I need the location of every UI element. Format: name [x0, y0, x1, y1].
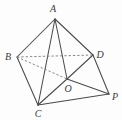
vertex-label-c: C	[35, 109, 42, 119]
edge-O-P	[67, 79, 109, 94]
edge-A-B	[17, 19, 55, 57]
edges-layer	[17, 19, 109, 105]
geometry-canvas	[0, 0, 122, 120]
edge-B-C	[17, 57, 38, 105]
vertex-label-p: P	[112, 92, 118, 102]
vertex-label-b: B	[5, 52, 11, 62]
edge-B-D-hidden	[17, 55, 93, 57]
edge-O-D	[67, 55, 93, 79]
geometry-figure: ABDCPO	[0, 0, 122, 120]
vertex-label-a: A	[50, 4, 56, 14]
edge-B-O-hidden	[17, 57, 67, 79]
vertex-label-d: D	[96, 50, 103, 60]
vertex-label-o: O	[64, 84, 71, 94]
edge-D-P	[93, 55, 109, 94]
